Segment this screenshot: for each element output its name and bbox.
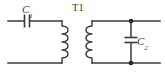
junction-dot-bottom-right — [129, 61, 134, 66]
circuit-diagram: C1 T1 C2 — [0, 0, 165, 82]
transformer-secondary-winding — [86, 21, 92, 63]
junction-dot-top-right — [129, 19, 134, 24]
capacitor-c1-label: C1 — [22, 4, 33, 18]
capacitor-c1-subscript: 1 — [29, 12, 33, 20]
capacitor-c2-label: C2 — [137, 36, 148, 50]
transformer-primary-winding — [62, 21, 68, 63]
transformer-t1-label: T1 — [72, 3, 84, 14]
capacitor-c2-subscript: 2 — [144, 44, 148, 52]
